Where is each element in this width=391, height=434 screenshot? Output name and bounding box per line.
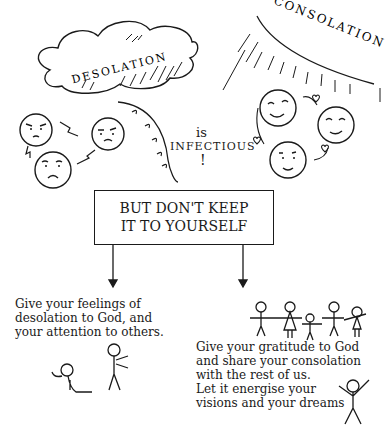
connector-infectious: INFECTIOUS <box>170 140 256 153</box>
kneeling-figure-icon <box>52 364 92 392</box>
left-line: Give your feelings of <box>15 297 205 311</box>
left-line: your attention to others. <box>15 325 205 339</box>
happy-face-icon <box>270 142 306 178</box>
sad-faces-group <box>20 114 124 188</box>
right-line: with the rest of us. <box>196 368 366 382</box>
right-line: and share your consolation <box>196 354 366 368</box>
left-line: desolation to God, and <box>15 311 205 325</box>
sad-face-icon <box>92 118 124 150</box>
desolation-label: DESOLATION <box>70 50 169 86</box>
arrow-down-icon <box>239 280 247 287</box>
center-box-line2: IT TO YOURSELF <box>95 217 273 235</box>
right-line: visions and your dreams <box>196 396 366 410</box>
happy-faces-group <box>257 90 354 178</box>
sad-face-icon <box>20 114 52 146</box>
consolation-label: CONSOLATION <box>272 0 387 51</box>
center-box-line1: BUT DON'T KEEP <box>95 199 273 217</box>
storm-cloud-icon <box>38 21 197 93</box>
heart-icon <box>254 95 329 152</box>
left-branch-text: Give your feelings of desolation to God,… <box>15 297 205 339</box>
right-line: Give your gratitude to God <box>196 340 366 354</box>
right-line: Let it energise your <box>196 382 366 396</box>
curly-divider <box>118 102 178 182</box>
connector-exclaim: ! <box>200 152 206 168</box>
happy-face-icon <box>318 107 354 143</box>
connector-is: is <box>196 125 207 140</box>
walking-figure-icon <box>108 344 128 390</box>
branch-arrows <box>109 245 247 287</box>
right-branch-text: Give your gratitude to God and share you… <box>196 340 366 410</box>
sad-face-icon <box>35 152 71 188</box>
arrow-down-icon <box>109 280 117 287</box>
holding-hands-figures-icon <box>250 302 366 340</box>
center-box: BUT DON'T KEEP IT TO YOURSELF <box>94 190 274 245</box>
happy-face-icon <box>260 90 296 126</box>
